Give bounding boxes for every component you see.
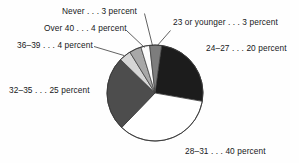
pie-slice-24-27 [155,45,203,101]
pie-label-28-31: 28–31 . . . 40 percent [185,147,266,155]
leader-line-23-or-younger [158,31,171,46]
pie-label-23-or-younger: 23 or younger . . . 3 percent [173,18,278,26]
pie-label-32-35: 32–35 . . . 25 percent [9,86,90,94]
pie-label-never: Never . . . 3 percent [62,7,137,15]
leader-line-never [145,14,153,46]
pie-chart-figure: Never . . . 3 percent Over 40 . . . 4 pe… [0,0,299,163]
pie-label-36-39: 36–39 . . . 4 percent [17,41,93,49]
leader-line-over-40 [127,31,145,48]
leader-line-36-39 [94,47,124,56]
pie-label-over-40: Over 40 . . . 4 percent [44,24,127,32]
pie-label-24-27: 24–27 . . . 20 percent [206,44,287,52]
